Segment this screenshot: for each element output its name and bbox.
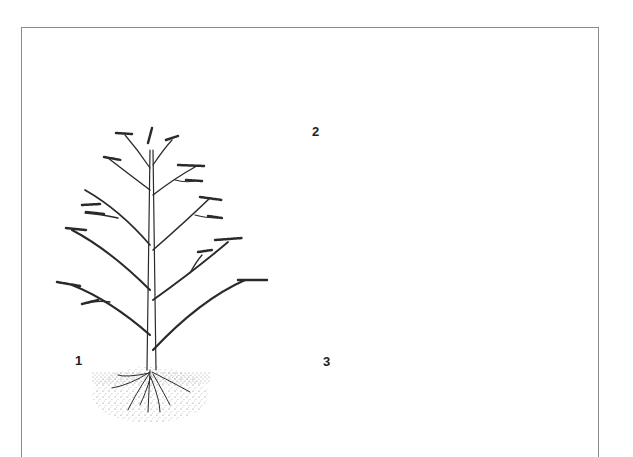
panel-label-1: 1 [75, 353, 82, 368]
panel-label-2: 2 [312, 124, 319, 139]
panel-1-tree [57, 128, 268, 423]
panel-label-3: 3 [323, 354, 330, 369]
